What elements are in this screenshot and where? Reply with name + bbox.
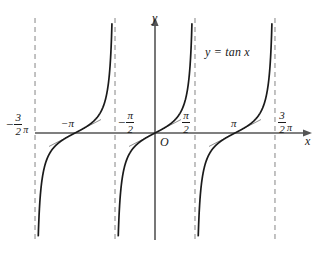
fraction: π 2 (126, 110, 134, 135)
tangent-curve-branch (38, 24, 112, 236)
fraction-numerator: 3 (278, 110, 286, 121)
fraction-denominator: 2 (15, 126, 23, 137)
pi-symbol: π (287, 123, 292, 135)
fraction-denominator: 2 (182, 124, 190, 135)
fraction-numerator: π (182, 110, 190, 121)
xtick-label-half-pi: π 2 (181, 110, 190, 135)
pi-symbol: π (23, 125, 28, 137)
fraction: 3 2 (14, 112, 22, 137)
origin-label: O (160, 136, 169, 148)
xtick-label-three-half-pi: 3 2 π (277, 110, 292, 135)
tangent-function-figure: y x O y = tan x − 3 2 π −π − π 2 π 2 (0, 0, 318, 255)
xtick-label-neg-pi: −π (61, 118, 74, 129)
fraction-sign: − (6, 118, 13, 131)
y-axis-label: y (152, 12, 157, 24)
fraction: 3 2 (278, 110, 286, 135)
xtick-label-pi: π (231, 118, 237, 129)
fraction-denominator: 2 (127, 124, 135, 135)
xtick-label-neg-half-pi: − π 2 (118, 110, 134, 135)
curve-equation-label: y = tan x (205, 46, 250, 58)
fraction-sign: − (118, 116, 125, 129)
fraction-denominator: 2 (278, 124, 286, 135)
xtick-label-neg-three-half-pi: − 3 2 π (6, 112, 28, 137)
fraction-numerator: π (127, 110, 135, 121)
fraction: π 2 (182, 110, 190, 135)
x-axis-label: x (305, 135, 310, 147)
plot-canvas (0, 0, 318, 255)
fraction-numerator: 3 (15, 112, 23, 123)
